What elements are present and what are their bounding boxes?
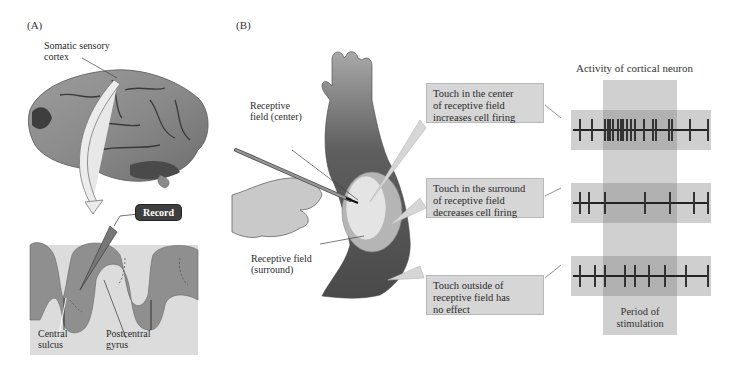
spike-mark (630, 119, 632, 141)
spike-mark (707, 192, 709, 214)
spike-mark (604, 192, 606, 214)
callout-surround: Touch in the surround of receptive field… (426, 178, 544, 218)
spike-mark (685, 265, 687, 287)
callout-center: Touch in the center of receptive field i… (426, 83, 544, 123)
spike-mark (634, 119, 636, 141)
spike-mark (648, 265, 650, 287)
stimulation-period-band (603, 80, 677, 335)
stim-label-line1: Period of (603, 306, 677, 318)
callout-center-line2: of receptive field (433, 100, 537, 112)
callout-center-line3: increases cell firing (433, 112, 537, 124)
spike-mark (664, 265, 666, 287)
spike-mark (604, 265, 606, 287)
spike-mark (626, 119, 628, 141)
spike-mark (617, 119, 619, 141)
rf-center-line2: field (center) (250, 111, 302, 122)
rf-center-line1: Receptive (250, 100, 302, 111)
callout-outside: Touch outside of receptive field has no … (426, 275, 544, 315)
spike-mark (707, 119, 709, 141)
stim-label-line2: stimulation (603, 318, 677, 330)
spike-mark (707, 265, 709, 287)
spike-mark (671, 119, 673, 141)
trace-surround-baseline (573, 202, 709, 204)
spike-mark (579, 265, 581, 287)
spike-mark (634, 265, 636, 287)
spike-mark (669, 192, 671, 214)
rf-surround-line1: Receptive field (251, 253, 312, 264)
spike-mark (591, 119, 593, 141)
receptive-field-surround-label: Receptive field (surround) (251, 253, 312, 275)
spike-mark (588, 192, 590, 214)
spike-mark (652, 119, 654, 141)
callout-surround-line2: of receptive field (433, 195, 537, 207)
callout-outside-line1: Touch outside of (433, 280, 537, 292)
callout-center-line1: Touch in the center (433, 88, 537, 100)
spike-mark (624, 265, 626, 287)
spike-mark (668, 119, 670, 141)
spike-mark (579, 192, 581, 214)
receptive-field-center-label: Receptive field (center) (250, 100, 302, 122)
spike-mark (579, 119, 581, 141)
callout-surround-line3: decreases cell firing (433, 207, 537, 219)
spike-mark (693, 192, 695, 214)
rf-surround-line2: (surround) (251, 264, 312, 275)
spike-mark (655, 119, 657, 141)
spike-mark (604, 119, 606, 141)
callout-surround-line1: Touch in the surround (433, 183, 537, 195)
callout-outside-line3: no effect (433, 304, 537, 316)
period-of-stimulation-label: Period of stimulation (603, 306, 677, 330)
spike-mark (643, 119, 645, 141)
callout-outside-line2: receptive field has (433, 292, 537, 304)
spike-mark (622, 119, 624, 141)
spike-mark (689, 119, 691, 141)
spike-mark (644, 192, 646, 214)
spike-mark (609, 119, 611, 141)
spike-mark (594, 265, 596, 287)
spike-mark (612, 119, 614, 141)
activity-title: Activity of cortical neuron (576, 62, 693, 74)
